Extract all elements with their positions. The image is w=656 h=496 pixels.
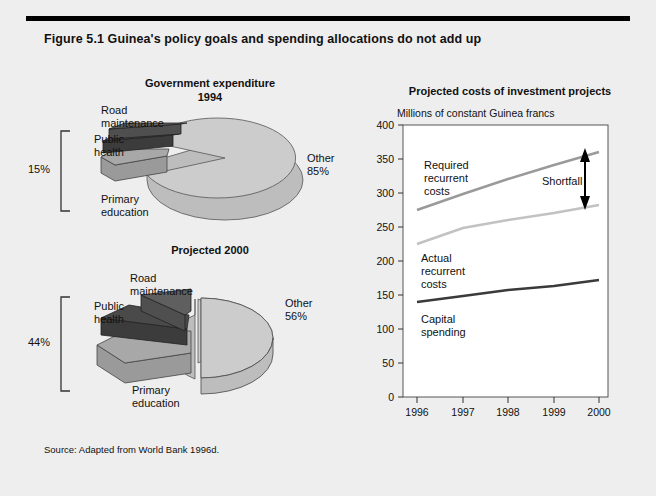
svg-text:150: 150 xyxy=(376,289,394,301)
pie2-title-block: Projected 2000 xyxy=(110,243,310,257)
svg-text:400: 400 xyxy=(376,119,394,131)
svg-text:300: 300 xyxy=(376,187,394,199)
pie1-title-line2: 1994 xyxy=(110,90,310,104)
pie2-title-line1: Projected 2000 xyxy=(110,243,310,257)
svg-text:200: 200 xyxy=(376,255,394,267)
svg-text:1996: 1996 xyxy=(405,406,429,418)
pie1-title-block: Government expenditure 1994 xyxy=(110,76,310,104)
pie2-label-health: Public health xyxy=(74,300,124,326)
svg-text:50: 50 xyxy=(382,357,394,369)
svg-text:250: 250 xyxy=(376,221,394,233)
figure-top-rule xyxy=(26,16,630,21)
x-axis: 1996 1997 1998 1999 2000 xyxy=(405,397,611,418)
svg-text:350: 350 xyxy=(376,153,394,165)
label-required-recurrent-costs: Required recurrent costs xyxy=(424,159,469,198)
pie1-bracket-label: 15% xyxy=(28,163,50,175)
y-axis: 400 350 300 250 200 150 100 50 0 xyxy=(376,119,403,403)
svg-text:0: 0 xyxy=(388,391,394,403)
svg-text:2000: 2000 xyxy=(587,406,611,418)
line-chart-title: Projected costs of investment projects xyxy=(395,84,625,98)
pie1-label-primary: Primary education xyxy=(101,193,149,219)
pie1-label-health: Public health xyxy=(70,133,124,159)
label-actual-recurrent-costs: Actual recurrent costs xyxy=(421,252,465,291)
line-chart-plot: 400 350 300 250 200 150 100 50 0 1996 19… xyxy=(376,118,624,418)
label-capital-spending: Capital spending xyxy=(421,313,466,339)
pie1-label-road: Road maintenance xyxy=(101,104,164,130)
label-shortfall: Shortfall xyxy=(542,175,582,188)
pie2-bracket-label: 44% xyxy=(28,336,50,348)
svg-text:1999: 1999 xyxy=(542,406,566,418)
pie2-label-primary: Primary education xyxy=(132,384,180,410)
pie2-label-road: Road maintenance xyxy=(130,272,193,298)
pie2-bracket xyxy=(58,296,72,392)
figure-source: Source: Adapted from World Bank 1996d. xyxy=(44,444,219,455)
pie1-label-other: Other 85% xyxy=(307,152,335,178)
figure-container: Figure 5.1 Guinea's policy goals and spe… xyxy=(0,0,656,496)
svg-text:100: 100 xyxy=(376,323,394,335)
pie2-label-other: Other 56% xyxy=(285,297,313,323)
svg-text:1997: 1997 xyxy=(451,406,475,418)
svg-text:1998: 1998 xyxy=(496,406,520,418)
page-title: Figure 5.1 Guinea's policy goals and spe… xyxy=(44,32,481,46)
pie1-title-line1: Government expenditure xyxy=(110,76,310,90)
